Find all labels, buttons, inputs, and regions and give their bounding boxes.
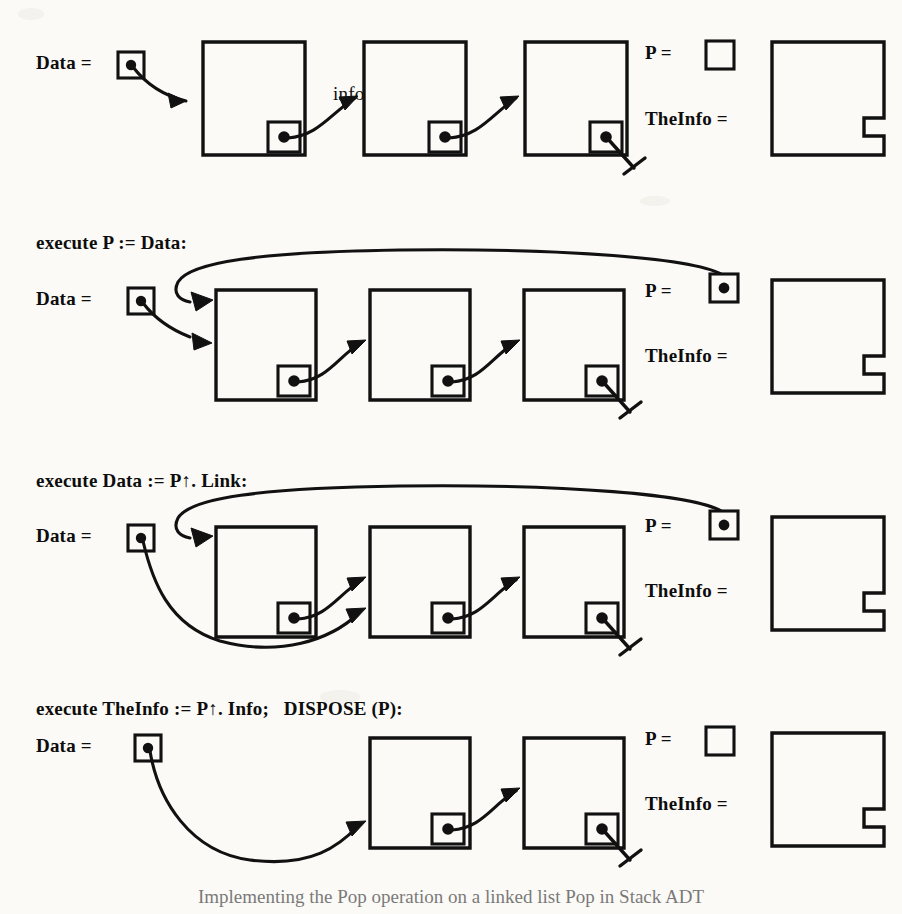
row4-theinfo-box	[772, 733, 884, 846]
row4-p-pointer-cell	[706, 727, 734, 755]
figure-canvas: Data = P = TheInfo = info1 info2 info3 ?…	[0, 0, 902, 914]
row4-graphics	[0, 0, 902, 914]
row4-link-data-to-info2	[150, 751, 358, 862]
figure-caption: Implementing the Pop operation on a link…	[0, 886, 902, 914]
